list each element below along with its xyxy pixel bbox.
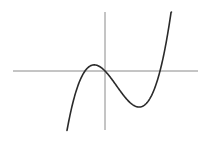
cubic-function-graph	[0, 0, 205, 141]
